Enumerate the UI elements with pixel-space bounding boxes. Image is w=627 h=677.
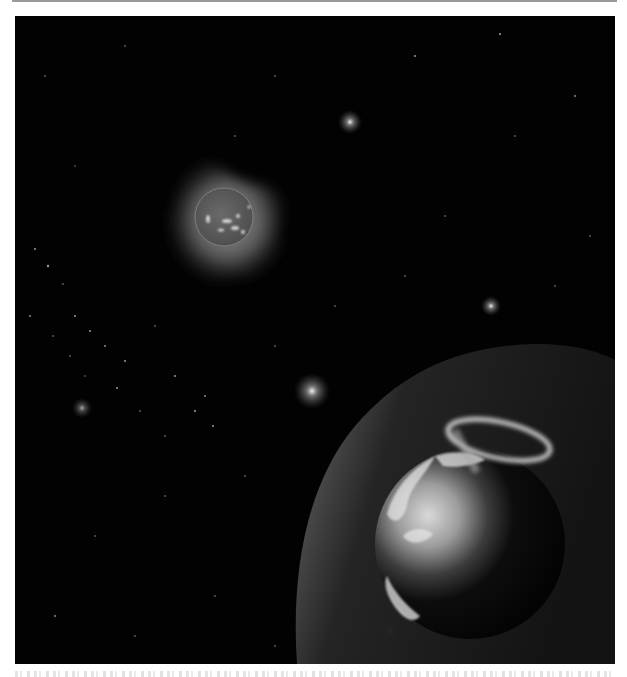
sun-earth-illustration [15, 16, 615, 664]
figure-caption-clipped [15, 671, 615, 677]
top-rule-divider [12, 0, 617, 2]
earth [375, 449, 565, 639]
caption-text [15, 671, 615, 677]
